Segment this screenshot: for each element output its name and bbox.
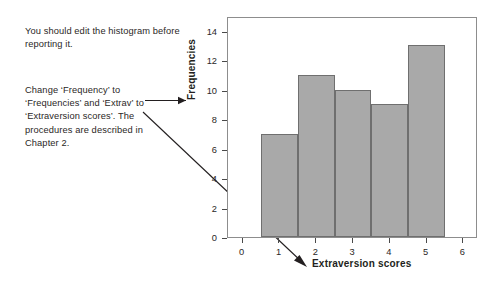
y-tick-label: 2: [195, 204, 217, 214]
x-tick-label: 6: [452, 247, 472, 257]
y-tick-label: 4: [195, 174, 217, 184]
figure-page: You should edit the histogram before rep…: [0, 0, 504, 289]
histogram-bar: [408, 45, 445, 237]
histogram-bar: [371, 104, 408, 237]
y-tick-label: 6: [195, 145, 217, 155]
x-tick-label: 3: [342, 247, 362, 257]
plot-frame: [227, 17, 477, 238]
x-tick-label: 2: [305, 247, 325, 257]
histogram-bar: [261, 134, 298, 237]
y-tick-label: 14: [195, 27, 217, 37]
histogram-bar: [298, 75, 335, 237]
y-tick-label: 10: [195, 86, 217, 96]
x-tick-label: 4: [379, 247, 399, 257]
x-tick-mark: [352, 238, 353, 243]
y-axis-label: Frequencies: [186, 39, 197, 100]
x-axis-label: Extraversion scores: [312, 258, 411, 269]
y-tick-mark: [222, 238, 227, 239]
x-tick-label: 5: [416, 247, 436, 257]
x-tick-mark: [278, 238, 279, 243]
x-tick-label: 1: [268, 247, 288, 257]
histogram-bar: [335, 90, 372, 237]
x-tick-mark: [315, 238, 316, 243]
x-tick-label: 0: [232, 247, 252, 257]
histogram-chart: 02468101214 0123456 Frequencies Extraver…: [0, 0, 504, 289]
x-tick-mark: [389, 238, 390, 243]
x-tick-mark: [426, 238, 427, 243]
bars-container: [228, 18, 476, 237]
x-tick-mark: [242, 238, 243, 243]
x-tick-mark: [462, 238, 463, 243]
y-tick-label: 8: [195, 115, 217, 125]
y-tick-label: 0: [195, 233, 217, 243]
y-tick-label: 12: [195, 56, 217, 66]
